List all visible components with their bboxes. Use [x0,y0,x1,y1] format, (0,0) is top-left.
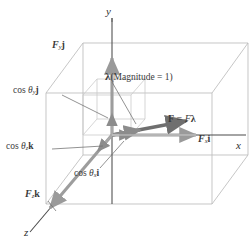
force-z-unit-vector: k [34,188,40,199]
resultant-force-label: F = Fλ [168,114,196,124]
x-axis-label: x [236,140,241,151]
resultant-lambda: λ [191,113,196,124]
force-x-symbol: F [198,133,205,144]
resultant-equals: = [174,113,185,124]
vector-decomposition-figure: y x z Fyj Fxi Fzk cos θyj cos θzk cos θx… [0,0,251,245]
cos-theta-z-label: cos θzk [6,142,33,152]
cos-theta-z-unit-vector: k [28,141,33,151]
force-x-label: Fxi [198,134,210,145]
y-axis-label: y [106,6,111,17]
force-x-unit-vector: i [208,133,211,144]
cos-theta-x-unit-vector: i [97,168,100,178]
cos-theta-y-prefix: cos [13,85,28,95]
figure-canvas [0,0,251,245]
force-z-label: Fzk [25,189,40,200]
lambda-magnitude-text: (Magnitude = 1) [110,72,172,82]
cos-theta-x-label: cos θxi [74,169,99,179]
outer-box-wireframe [46,43,248,204]
lambda-magnitude-label: λ(Magnitude = 1) [105,71,173,83]
force-y-label: Fyj [52,40,65,51]
force-y-symbol: F [52,39,59,50]
inner-unit-cube [83,79,145,135]
force-y-unit-vector: j [62,39,65,50]
force-z-symbol: F [25,188,32,199]
cos-theta-z-arrow [98,135,112,151]
cos-theta-x-prefix: cos [74,168,89,178]
cos-theta-z-prefix: cos [6,141,21,151]
cos-theta-y-label: cos θyj [13,86,39,96]
cos-theta-y-unit-vector: j [36,85,39,95]
z-axis-label: z [24,227,28,238]
